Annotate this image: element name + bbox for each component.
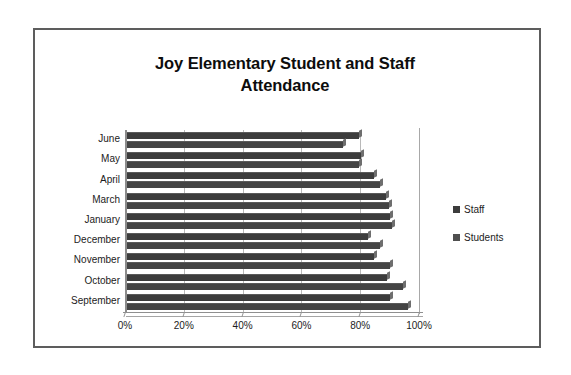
bar-staff-may[interactable]: [127, 152, 361, 159]
bar-end-cap: [390, 210, 393, 219]
bar-end-cap: [361, 149, 364, 158]
bar-end-cap: [380, 239, 383, 248]
category-axis-line-shadow: [126, 316, 423, 317]
bar-end-cap: [389, 199, 392, 208]
bar-students-june[interactable]: [127, 141, 343, 148]
bar-staff-november[interactable]: [127, 253, 374, 260]
category-label-january: January: [84, 214, 120, 225]
bar-end-cap: [387, 271, 390, 280]
bar-end-cap: [386, 190, 389, 199]
bar-end-cap: [343, 138, 346, 147]
category-axis-line: [123, 312, 423, 313]
plot-area: [125, 130, 419, 312]
document-frame: Joy Elementary Student and Staff Attenda…: [33, 28, 541, 348]
bar-end-cap: [368, 230, 371, 239]
bar-end-cap: [374, 250, 377, 259]
chart-title: Joy Elementary Student and Staff Attenda…: [85, 52, 485, 96]
category-label-november: November: [74, 254, 120, 265]
legend-item-staff[interactable]: Staff: [453, 202, 539, 216]
bar-staff-april[interactable]: [127, 172, 374, 179]
category-label-december: December: [74, 234, 120, 245]
bar-end-cap: [390, 259, 393, 268]
bar-staff-june[interactable]: [127, 132, 359, 139]
bar-end-cap: [390, 291, 393, 300]
value-tick-label: 60%: [281, 320, 321, 331]
legend-swatch-icon: [453, 234, 460, 241]
value-tick-label: 100%: [399, 320, 439, 331]
bar-students-january[interactable]: [127, 222, 392, 229]
bar-staff-march[interactable]: [127, 193, 386, 200]
category-label-september: September: [71, 295, 120, 306]
value-axis-tick-labels: 0%20%40%60%80%100%: [35, 320, 539, 336]
bar-end-cap: [408, 300, 411, 309]
bar-staff-october[interactable]: [127, 274, 387, 281]
bar-students-may[interactable]: [127, 161, 359, 168]
value-tick-label: 0%: [105, 320, 145, 331]
chart-object[interactable]: Joy Elementary Student and Staff Attenda…: [35, 30, 539, 346]
value-tick-label: 40%: [223, 320, 263, 331]
category-label-may: May: [101, 153, 120, 164]
bar-staff-january[interactable]: [127, 213, 390, 220]
bar-staff-september[interactable]: [127, 294, 390, 301]
bar-students-april[interactable]: [127, 181, 380, 188]
chart-title-line-2: Attendance: [241, 76, 330, 94]
value-tick-label: 20%: [164, 320, 204, 331]
value-tick-label: 80%: [340, 320, 380, 331]
category-label-october: October: [84, 275, 120, 286]
bar-students-october[interactable]: [127, 283, 403, 290]
category-label-june: June: [98, 133, 120, 144]
category-label-march: March: [92, 194, 120, 205]
chart-legend[interactable]: StaffStudents: [453, 202, 539, 258]
bar-end-cap: [392, 219, 395, 228]
bar-staff-december[interactable]: [127, 233, 368, 240]
bar-end-cap: [403, 280, 406, 289]
legend-swatch-icon: [453, 206, 460, 213]
category-axis-labels: JuneMayAprilMarchJanuaryDecemberNovember…: [35, 130, 120, 312]
legend-item-students[interactable]: Students: [453, 230, 539, 244]
bar-end-cap: [359, 129, 362, 138]
bar-end-cap: [374, 170, 377, 179]
plot-right-wall: [419, 128, 420, 314]
legend-label: Students: [464, 232, 503, 243]
legend-label: Staff: [464, 204, 484, 215]
bar-students-december[interactable]: [127, 242, 380, 249]
chart-title-line-1: Joy Elementary Student and Staff: [155, 54, 415, 72]
bar-students-september[interactable]: [127, 303, 408, 310]
bar-end-cap: [359, 158, 362, 167]
bar-end-cap: [380, 179, 383, 188]
bar-students-march[interactable]: [127, 202, 389, 209]
category-label-april: April: [100, 174, 120, 185]
bar-students-november[interactable]: [127, 262, 390, 269]
